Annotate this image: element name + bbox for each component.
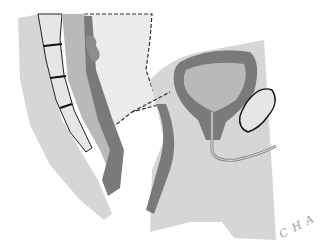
pelvis-sagittal-illustration <box>0 0 324 251</box>
